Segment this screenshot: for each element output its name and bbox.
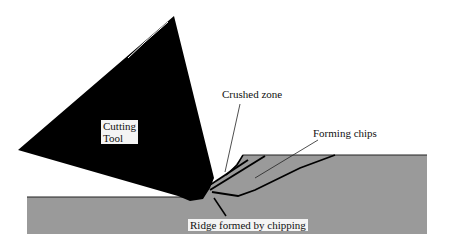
label-cutting-tool: Cutting Tool [101,120,138,144]
label-forming-chips: Forming chips [313,127,377,139]
label-crushed-zone: Crushed zone [222,88,282,100]
leader-crushed-zone [225,104,240,172]
label-cutting-tool-line1: Cutting [103,120,136,132]
label-cutting-tool-line2: Tool [103,132,136,144]
label-ridge: Ridge formed by chipping [188,219,308,231]
diagram-canvas [0,0,461,249]
cutting-tool [18,16,214,201]
